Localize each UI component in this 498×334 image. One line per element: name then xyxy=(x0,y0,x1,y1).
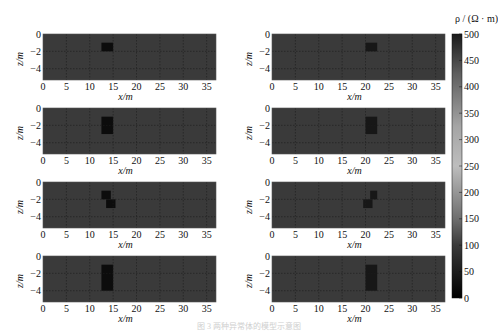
x-tick-label: 0 xyxy=(41,81,46,92)
x-tick-label: 20 xyxy=(361,81,371,92)
z-tick-label: −4 xyxy=(259,211,270,222)
z-tick-label: 0 xyxy=(265,29,270,40)
x-tick-label: 20 xyxy=(132,81,142,92)
x-axis-label: x/m xyxy=(117,313,132,324)
z-axis-label: z/m xyxy=(243,52,254,67)
x-tick-label: 15 xyxy=(108,303,118,314)
x-tick-label: 20 xyxy=(361,303,371,314)
z-tick-label: 0 xyxy=(36,177,41,188)
x-tick-label: 10 xyxy=(85,303,95,314)
x-tick-label: 25 xyxy=(384,81,394,92)
x-tick-label: 0 xyxy=(270,303,275,314)
panel-right-3: 051015202530350−2−4x/mz/m xyxy=(243,177,445,251)
z-tick-label: 0 xyxy=(36,103,41,114)
x-tick-label: 20 xyxy=(361,229,371,240)
x-tick-label: 35 xyxy=(431,155,441,166)
panel-background xyxy=(272,182,445,228)
panel-left-1: 051015202530350−2−4x/mz/m xyxy=(14,29,216,103)
anomaly-block xyxy=(101,191,110,200)
z-axis-label: z/m xyxy=(14,126,25,141)
panel-background xyxy=(43,108,216,154)
x-tick-label: 10 xyxy=(85,229,95,240)
z-tick-label: −2 xyxy=(30,268,41,279)
x-axis-label: x/m xyxy=(117,91,132,102)
colorbar-label: ρ / (Ω · m) xyxy=(455,13,498,25)
z-tick-label: 0 xyxy=(265,177,270,188)
x-tick-label: 5 xyxy=(293,303,298,314)
x-tick-label: 5 xyxy=(64,155,69,166)
x-tick-label: 30 xyxy=(178,155,188,166)
z-tick-label: −4 xyxy=(259,63,270,74)
x-tick-label: 30 xyxy=(178,303,188,314)
z-axis-label: z/m xyxy=(14,52,25,67)
x-tick-label: 35 xyxy=(431,303,441,314)
colorbar-tick-label: 150 xyxy=(464,213,479,224)
x-tick-label: 15 xyxy=(337,155,347,166)
x-tick-label: 35 xyxy=(202,155,212,166)
x-tick-label: 35 xyxy=(202,81,212,92)
x-tick-label: 25 xyxy=(384,155,394,166)
colorbar-tick-label: 50 xyxy=(464,266,474,277)
x-tick-label: 5 xyxy=(64,229,69,240)
x-tick-label: 30 xyxy=(178,229,188,240)
x-tick-label: 15 xyxy=(337,229,347,240)
x-tick-label: 5 xyxy=(64,303,69,314)
z-tick-label: 0 xyxy=(265,103,270,114)
z-tick-label: −2 xyxy=(259,194,270,205)
x-axis-label: x/m xyxy=(117,165,132,176)
colorbar-tick-label: 100 xyxy=(464,240,479,251)
z-tick-label: 0 xyxy=(36,251,41,262)
x-tick-label: 25 xyxy=(384,303,394,314)
panel-left-2: 051015202530350−2−4x/mz/m xyxy=(14,103,216,177)
x-tick-label: 0 xyxy=(270,155,275,166)
x-tick-label: 20 xyxy=(361,155,371,166)
colorbar-tick-label: 300 xyxy=(464,134,479,145)
panel-background xyxy=(272,34,445,80)
x-axis-label: x/m xyxy=(346,91,361,102)
panel-left-3: 051015202530350−2−4x/mz/m xyxy=(14,177,216,251)
x-tick-label: 30 xyxy=(178,81,188,92)
x-tick-label: 10 xyxy=(314,81,324,92)
anomaly-block xyxy=(366,265,378,291)
x-axis-label: x/m xyxy=(346,165,361,176)
panel-right-2: 051015202530350−2−4x/mz/m xyxy=(243,103,445,177)
z-axis-label: z/m xyxy=(14,200,25,215)
x-tick-label: 15 xyxy=(337,81,347,92)
panel-right-4: 051015202530350−2−4x/mz/m xyxy=(243,251,445,325)
anomaly-block xyxy=(370,191,377,200)
x-tick-label: 10 xyxy=(85,81,95,92)
panel-background xyxy=(43,182,216,228)
z-tick-label: −4 xyxy=(30,285,41,296)
x-tick-label: 25 xyxy=(155,155,165,166)
x-tick-label: 15 xyxy=(108,229,118,240)
colorbar-tick-label: 500 xyxy=(464,29,479,40)
z-tick-label: −4 xyxy=(30,137,41,148)
x-tick-label: 10 xyxy=(314,303,324,314)
figure: 051015202530350−2−4x/mz/m051015202530350… xyxy=(0,0,498,334)
x-tick-label: 0 xyxy=(270,81,275,92)
panels: 051015202530350−2−4x/mz/m051015202530350… xyxy=(14,29,445,325)
x-tick-label: 0 xyxy=(41,229,46,240)
z-tick-label: 0 xyxy=(265,251,270,262)
x-tick-label: 35 xyxy=(431,229,441,240)
anomaly-block xyxy=(366,43,378,52)
colorbar: ρ / (Ω · m) 0501001502002503003504004505… xyxy=(452,13,498,304)
x-tick-label: 5 xyxy=(293,155,298,166)
panel-left-4: 051015202530350−2−4x/mz/m xyxy=(14,251,216,325)
x-tick-label: 30 xyxy=(407,229,417,240)
x-tick-label: 30 xyxy=(407,155,417,166)
x-tick-label: 0 xyxy=(41,303,46,314)
z-tick-label: −2 xyxy=(30,46,41,57)
x-tick-label: 20 xyxy=(132,155,142,166)
x-tick-label: 15 xyxy=(108,81,118,92)
x-axis-label: x/m xyxy=(117,239,132,250)
z-axis-label: z/m xyxy=(243,274,254,289)
x-tick-label: 30 xyxy=(407,303,417,314)
x-tick-label: 20 xyxy=(132,303,142,314)
panel-background xyxy=(43,34,216,80)
x-axis-label: x/m xyxy=(346,239,361,250)
x-tick-label: 10 xyxy=(314,229,324,240)
x-tick-label: 35 xyxy=(431,81,441,92)
panel-background xyxy=(43,256,216,302)
z-tick-label: −4 xyxy=(30,63,41,74)
